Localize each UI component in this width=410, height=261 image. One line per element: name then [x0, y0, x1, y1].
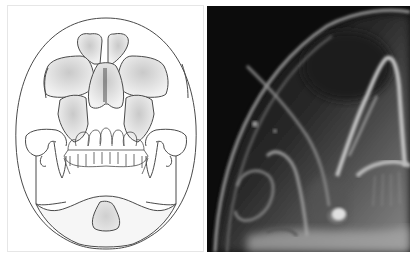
skull-xray-icon: [207, 6, 410, 252]
coronoid-left: [54, 142, 66, 178]
xray-panel: [207, 6, 410, 252]
skull-diagram-icon: [8, 6, 205, 253]
lower-teeth: [64, 152, 148, 174]
maxillary-sinus-left: [58, 95, 88, 142]
coronoid-right: [146, 142, 158, 178]
orbit-right: [118, 56, 168, 97]
zygomatic-arch-right: [145, 129, 186, 156]
maxillary-sinus-right: [124, 95, 154, 142]
skull-illustration-panel: [7, 5, 204, 252]
orbit-left: [44, 56, 94, 97]
zygomatic-arch-left: [25, 129, 66, 156]
